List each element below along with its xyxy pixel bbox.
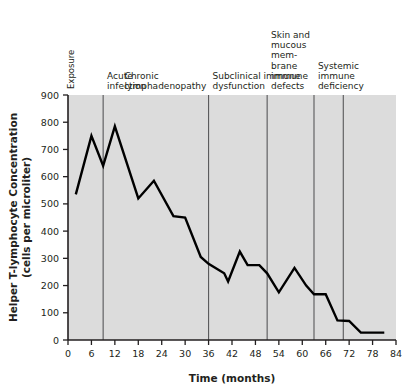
annotation-systemic-immune-deficiency-line-1: Systemic <box>318 61 359 71</box>
x-tick-label-78: 78 <box>367 348 379 359</box>
annotation-skin-mucous-membrane-line-4: brane <box>271 61 298 71</box>
annotation-chronic-lymphadenopathy-line-2: lymphadenopathy <box>125 81 207 91</box>
chart-figure: 0612182430364248546066727884 01002003004… <box>0 0 413 389</box>
x-tick-label-72: 72 <box>343 348 355 359</box>
x-axis-title: Time (months) <box>189 372 275 384</box>
x-tick-label-24: 24 <box>156 348 168 359</box>
x-tick-label-0: 0 <box>65 348 71 359</box>
annotation-systemic-immune-deficiency-line-2: immune <box>318 71 355 81</box>
y-tick-label-600: 600 <box>41 171 59 182</box>
x-tick-label-66: 66 <box>320 348 332 359</box>
annotation-skin-mucous-membrane-line-2: mucous <box>271 40 307 50</box>
annotation-skin-mucous-membrane-line-6: defects <box>271 81 304 91</box>
y-tick-label-400: 400 <box>41 226 59 237</box>
annotation-subclinical-immune-dysfunction-line-2: dysfunction <box>212 81 265 91</box>
annotation-systemic-immune-deficiency-line-3: deficiency <box>318 81 365 91</box>
x-tick-label-54: 54 <box>273 348 285 359</box>
x-tick-label-12: 12 <box>109 348 121 359</box>
x-tick-label-18: 18 <box>132 348 144 359</box>
annotation-skin-mucous-membrane-line-5: immune <box>271 71 308 81</box>
y-tick-label-800: 800 <box>41 117 59 128</box>
y-axis-title-line-2: (cells per microliter) <box>20 157 32 278</box>
annotation-exposure: Exposure <box>66 50 76 89</box>
y-tick-label-700: 700 <box>41 144 59 155</box>
y-tick-label-0: 0 <box>53 335 59 346</box>
y-tick-label-900: 900 <box>41 90 59 101</box>
y-tick-label-500: 500 <box>41 198 59 209</box>
x-tick-label-42: 42 <box>226 348 238 359</box>
annotation-skin-mucous-membrane-line-1: Skin and <box>271 30 310 40</box>
annotation-skin-mucous-membrane-line-3: mem- <box>271 50 297 60</box>
x-tick-label-60: 60 <box>296 348 308 359</box>
y-tick-label-100: 100 <box>41 307 59 318</box>
y-tick-label-300: 300 <box>41 253 59 264</box>
x-tick-label-30: 30 <box>179 348 191 359</box>
x-tick-label-36: 36 <box>203 348 215 359</box>
x-tick-label-48: 48 <box>249 348 261 359</box>
y-axis-title-line-1: Helper T-lymphocyte Concentration <box>7 113 19 322</box>
x-tick-label-84: 84 <box>390 348 402 359</box>
y-tick-label-200: 200 <box>41 280 59 291</box>
x-tick-label-6: 6 <box>88 348 94 359</box>
t-lymphocyte-decline-line-chart: 0612182430364248546066727884 01002003004… <box>0 0 413 389</box>
annotation-chronic-lymphadenopathy-line-1: Chronic <box>125 71 159 81</box>
